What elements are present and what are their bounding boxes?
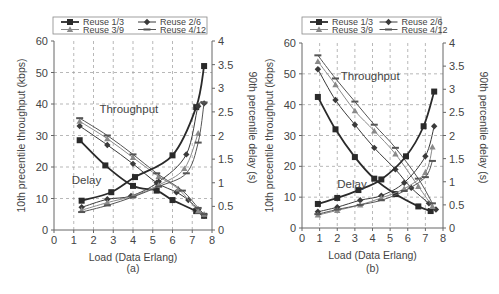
dash-marker-icon bbox=[76, 117, 83, 119]
dash-marker-icon bbox=[130, 196, 137, 198]
y2-tick-label: 0.5 bbox=[218, 200, 233, 212]
x-tick-label: 3 bbox=[352, 232, 358, 244]
triangle-marker-icon bbox=[315, 58, 321, 64]
square-marker-icon bbox=[67, 19, 73, 25]
x-tick-label: 0 bbox=[51, 234, 57, 246]
x-tick-label: 6 bbox=[169, 234, 175, 246]
annotation-delay: Delay bbox=[337, 178, 367, 190]
x-tick-label: 6 bbox=[405, 232, 411, 244]
legend-label: Reuse 4/12 bbox=[160, 25, 206, 35]
dash-marker-icon bbox=[371, 124, 378, 126]
square-marker-icon bbox=[352, 154, 358, 160]
square-marker-icon bbox=[378, 176, 384, 182]
square-marker-icon bbox=[108, 189, 114, 195]
square-marker-icon bbox=[201, 63, 207, 69]
annotation-delay: Delay bbox=[72, 174, 102, 186]
dash-marker-icon bbox=[378, 199, 385, 201]
x-tick-label: 7 bbox=[189, 234, 195, 246]
y2-axis-title: 90th percentile delay (s) bbox=[478, 71, 490, 183]
y-tick-label: 20 bbox=[284, 160, 296, 172]
x-tick-label: 0 bbox=[299, 232, 305, 244]
y2-tick-label: 1.5 bbox=[218, 153, 233, 165]
y2-tick-label: 3.5 bbox=[218, 59, 233, 71]
annotation-throughput: Throughput bbox=[99, 103, 159, 115]
y2-tick-label: 0 bbox=[218, 224, 224, 236]
legend: Reuse 1/3Reuse 2/6Reuse 3/9Reuse 4/12 bbox=[302, 17, 448, 35]
square-marker-icon bbox=[315, 201, 321, 207]
diamond-marker-icon bbox=[332, 97, 338, 103]
dash-marker-icon bbox=[179, 190, 186, 192]
y-tick-label: 0 bbox=[42, 224, 48, 236]
dash-marker-icon bbox=[201, 213, 208, 215]
square-marker-icon bbox=[428, 208, 434, 214]
y2-tick-label: 2.5 bbox=[218, 106, 233, 118]
series-delay-2-6 bbox=[78, 100, 207, 210]
y2-axis-title: 90th percentile delay (s) bbox=[247, 71, 259, 183]
y2-tick-label: 0.5 bbox=[449, 199, 464, 211]
series-group bbox=[76, 63, 207, 219]
chart-panel-b: 012345678010203040506000.511.522.533.54L… bbox=[263, 17, 490, 274]
triangle-marker-icon bbox=[181, 165, 187, 171]
legend-label: Reuse 4/12 bbox=[402, 25, 448, 35]
y2-tick-label: 2 bbox=[218, 130, 224, 142]
dash-marker-icon bbox=[401, 190, 408, 192]
series-throughput-1-3 bbox=[315, 94, 434, 214]
y-tick-label: 50 bbox=[36, 67, 48, 79]
square-marker-icon bbox=[431, 89, 437, 95]
dash-marker-icon bbox=[130, 153, 137, 155]
x-tick-label: 7 bbox=[422, 232, 428, 244]
panel-caption: (a) bbox=[127, 262, 140, 274]
x-tick-label: 4 bbox=[130, 234, 136, 246]
y-tick-label: 20 bbox=[36, 161, 48, 173]
square-marker-icon bbox=[132, 174, 138, 180]
y2-tick-label: 3 bbox=[449, 83, 455, 95]
legend-label: Reuse 3/9 bbox=[332, 25, 373, 35]
square-marker-icon bbox=[332, 126, 338, 132]
dash-marker-icon bbox=[144, 29, 151, 31]
diamond-marker-icon bbox=[422, 153, 428, 159]
dash-marker-icon bbox=[357, 204, 364, 206]
y2-tick-label: 2.5 bbox=[449, 106, 464, 118]
diamond-marker-icon bbox=[104, 142, 110, 148]
x-tick-label: 2 bbox=[334, 232, 340, 244]
dash-marker-icon bbox=[429, 202, 436, 204]
chart-panel-a: 012345678010203040506000.511.522.533.54L… bbox=[15, 17, 259, 274]
square-marker-icon bbox=[102, 162, 108, 168]
annotation-throughput: Throughput bbox=[341, 70, 401, 82]
dash-marker-icon bbox=[183, 172, 190, 174]
dash-marker-icon bbox=[422, 176, 429, 178]
dash-marker-icon bbox=[78, 211, 85, 213]
square-marker-icon bbox=[170, 152, 176, 158]
square-marker-icon bbox=[415, 203, 421, 209]
x-tick-label: 8 bbox=[209, 234, 215, 246]
diamond-marker-icon bbox=[183, 151, 189, 157]
y-tick-label: 40 bbox=[284, 99, 296, 111]
x-tick-label: 5 bbox=[150, 234, 156, 246]
square-marker-icon bbox=[77, 137, 83, 143]
dash-marker-icon bbox=[153, 172, 160, 174]
dash-marker-icon bbox=[104, 204, 111, 206]
x-tick-label: 2 bbox=[90, 234, 96, 246]
y2-tick-label: 4 bbox=[218, 35, 224, 47]
y-tick-label: 10 bbox=[284, 191, 296, 203]
dash-marker-icon bbox=[332, 77, 339, 79]
y2-tick-label: 1 bbox=[218, 177, 224, 189]
y-tick-label: 60 bbox=[284, 37, 296, 49]
y-tick-label: 60 bbox=[36, 35, 48, 47]
legend-label: Reuse 3/9 bbox=[83, 25, 124, 35]
diamond-marker-icon bbox=[315, 66, 321, 72]
square-marker-icon bbox=[130, 183, 136, 189]
dash-marker-icon bbox=[314, 213, 321, 215]
y-tick-label: 30 bbox=[36, 130, 48, 142]
x-tick-label: 1 bbox=[71, 234, 77, 246]
y-tick-label: 30 bbox=[284, 130, 296, 142]
figure-two-panel-chart: 012345678010203040506000.511.522.533.54L… bbox=[0, 0, 499, 294]
y-tick-label: 50 bbox=[284, 68, 296, 80]
series-throughput-2-6 bbox=[315, 66, 439, 213]
x-axis-title: Load (Data Erlang) bbox=[328, 249, 417, 261]
square-marker-icon bbox=[421, 123, 427, 129]
dash-marker-icon bbox=[351, 101, 358, 103]
y-axis-title: 10th precentile throughput (kbps) bbox=[263, 58, 275, 212]
dash-marker-icon bbox=[195, 207, 202, 209]
x-tick-label: 3 bbox=[110, 234, 116, 246]
